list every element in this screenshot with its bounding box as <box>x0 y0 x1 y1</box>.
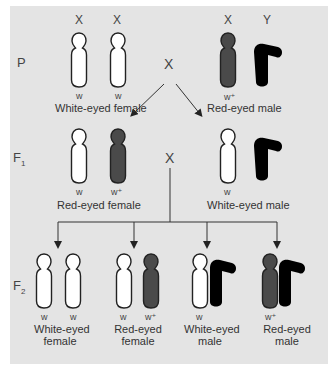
cross-symbol-f1: X <box>165 150 174 166</box>
f2-1-phenotype: White-eyedfemale <box>34 323 86 347</box>
f2-1-allele-2: w <box>70 311 77 323</box>
f1-female-phenotype: Red-eyed female <box>57 199 141 211</box>
p-female-x2-label: X <box>113 14 121 26</box>
p-male-y-label: Y <box>263 14 271 26</box>
p-male-y <box>254 44 282 87</box>
p-female-allele-2: w <box>115 90 122 102</box>
f2-2-allele-1: w <box>120 311 127 323</box>
f2-4-allele: w⁺ <box>265 311 276 323</box>
generation-label-p: P <box>17 55 26 70</box>
f2-3-allele: w <box>196 311 203 323</box>
f2-4-phenotype: Red-eyedmale <box>262 323 312 347</box>
p-female-x1-label: X <box>75 14 83 26</box>
p-male-x <box>221 33 236 87</box>
p-female-x2 <box>111 33 126 87</box>
generation-label-f1: F1 <box>13 150 25 168</box>
f1-male-allele: w <box>224 186 231 198</box>
f2-2-allele-2: w⁺ <box>145 311 156 323</box>
f1-female-allele-2: w⁺ <box>111 186 122 198</box>
f2-3-phenotype: White-eyedmale <box>184 323 236 347</box>
f2-1-allele-1: w <box>41 311 48 323</box>
f1-female-allele-1: w <box>76 186 83 198</box>
p-female-phenotype: White-eyed female <box>55 102 147 114</box>
p-female-allele-1: w <box>76 90 83 102</box>
p-male-phenotype: Red-eyed male <box>207 102 282 114</box>
p-male-x-label: X <box>224 14 232 26</box>
cross-symbol-p: X <box>164 56 173 72</box>
f2-2-phenotype: Red-eyedfemale <box>113 323 163 347</box>
f1-male-phenotype: White-eyed male <box>207 199 290 211</box>
generation-label-f2: F2 <box>13 278 25 296</box>
p-female-x1 <box>72 33 87 87</box>
